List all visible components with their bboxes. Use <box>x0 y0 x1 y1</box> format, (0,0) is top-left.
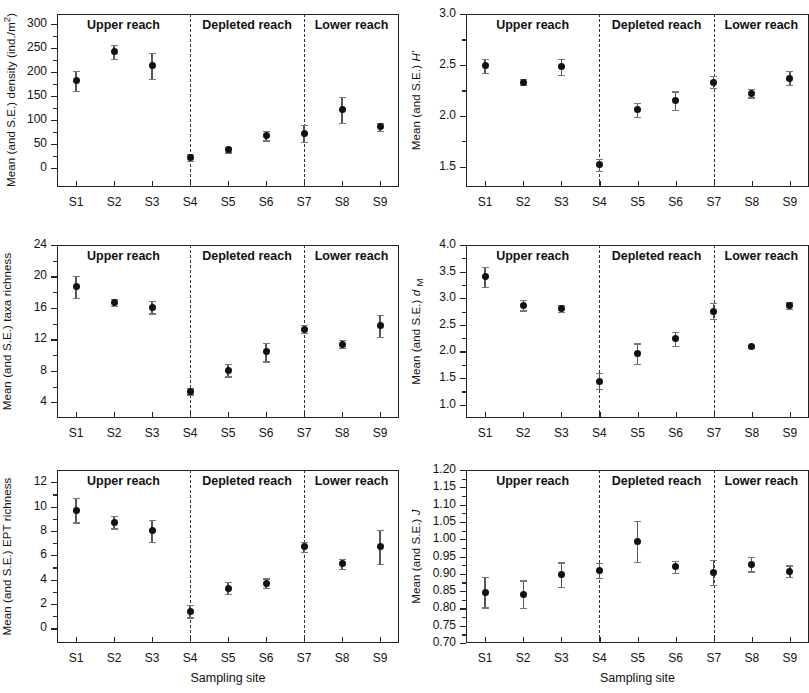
x-tick-label: S7 <box>284 651 324 665</box>
x-tick-mark <box>380 181 381 187</box>
y-tick-mark <box>51 96 57 97</box>
error-bar-cap-top <box>377 315 384 316</box>
y-tick-mark <box>460 116 466 117</box>
y-tick-label: 0.75 <box>418 618 456 632</box>
error-bar-cap-bottom <box>558 75 565 76</box>
error-bar-cap-bottom <box>786 577 793 578</box>
data-point <box>482 589 489 596</box>
x-tick-mark <box>790 412 791 418</box>
x-tick-mark <box>152 637 153 643</box>
x-tick-label: S9 <box>360 195 400 209</box>
x-tick-mark <box>561 637 562 643</box>
x-tick-label: S8 <box>322 426 362 440</box>
error-bar-cap-top <box>111 516 118 517</box>
error-bar-cap-bottom <box>339 569 346 570</box>
error-bar-cap-bottom <box>710 319 717 320</box>
y-tick-mark-minor <box>462 531 466 532</box>
error-bar-cap-bottom <box>748 571 755 572</box>
y-tick-mark <box>51 604 57 605</box>
y-tick-mark-minor <box>53 616 57 617</box>
x-tick-mark <box>561 181 562 187</box>
y-tick-mark-minor <box>462 548 466 549</box>
data-point <box>301 543 308 550</box>
y-tick-mark <box>460 65 466 66</box>
error-bar-cap-bottom <box>377 564 384 565</box>
error-bar-cap-bottom <box>111 528 118 529</box>
error-bar-cap-top <box>634 343 641 344</box>
y-tick-mark <box>51 120 57 121</box>
y-tick-label: 2.5 <box>418 57 456 71</box>
y-tick-mark-minor <box>462 39 466 40</box>
y-tick-mark <box>460 167 466 168</box>
group-divider <box>599 470 600 643</box>
data-point <box>377 123 384 130</box>
error-bar-cap-bottom <box>634 364 641 365</box>
y-tick-mark-minor <box>462 496 466 497</box>
reach-label-upper-reach: Upper reach <box>466 474 599 488</box>
data-point <box>263 132 270 139</box>
reach-label-upper-reach: Upper reach <box>57 249 190 263</box>
y-tick-mark-minor <box>53 292 57 293</box>
x-tick-mark <box>790 181 791 187</box>
x-tick-mark <box>114 637 115 643</box>
error-bar-cap-top <box>149 53 156 54</box>
y-tick-mark <box>460 608 466 609</box>
x-tick-label: S7 <box>694 195 734 209</box>
error-bar-cap-top <box>710 303 717 304</box>
y-tick-mark-minor <box>462 600 466 601</box>
x-tick-mark <box>752 637 753 643</box>
y-tick-mark <box>51 507 57 508</box>
x-tick-label: S5 <box>208 651 248 665</box>
error-bar-cap-top <box>225 582 232 583</box>
x-tick-mark <box>485 637 486 643</box>
data-point <box>377 543 384 550</box>
x-tick-label: S5 <box>618 195 658 209</box>
reach-label-depleted-reach: Depleted reach <box>599 474 713 488</box>
y-tick-mark-minor <box>462 513 466 514</box>
x-tick-label: S4 <box>579 651 619 665</box>
data-point <box>149 62 156 69</box>
x-axis-label-ept-richness: Sampling site <box>57 671 399 685</box>
y-tick-mark <box>460 591 466 592</box>
y-tick-mark-minor <box>462 285 466 286</box>
y-tick-label: 6 <box>9 547 47 561</box>
data-point <box>111 299 118 306</box>
plot-area-margalef <box>466 245 809 418</box>
error-bar-cap-bottom <box>786 309 793 310</box>
data-point <box>263 580 270 587</box>
x-tick-mark <box>380 637 381 643</box>
data-point <box>149 304 156 311</box>
y-tick-label: 10 <box>9 499 47 513</box>
x-tick-mark <box>228 412 229 418</box>
x-tick-label: S5 <box>618 651 658 665</box>
y-tick-mark <box>460 351 466 352</box>
error-bar-cap-bottom <box>149 542 156 543</box>
x-tick-mark <box>152 181 153 187</box>
x-tick-label: S3 <box>132 195 172 209</box>
error-bar-cap-top <box>73 71 80 72</box>
x-tick-label: S8 <box>322 651 362 665</box>
x-tick-label: S8 <box>732 426 772 440</box>
data-point <box>596 567 603 574</box>
error-bar-cap-bottom <box>301 142 308 143</box>
y-tick-label: 3.0 <box>418 6 456 20</box>
group-divider <box>304 14 305 187</box>
y-tick-label: 20 <box>9 268 47 282</box>
x-tick-label: S2 <box>94 426 134 440</box>
error-bar-cap-top <box>672 332 679 333</box>
data-point <box>301 130 308 137</box>
data-point <box>263 348 270 355</box>
y-tick-mark-minor <box>53 519 57 520</box>
y-axis-label-shannon: Mean (and S.E.) H' <box>410 14 422 187</box>
y-tick-label: 12 <box>9 331 47 345</box>
group-divider <box>714 245 715 418</box>
reach-label-depleted-reach: Depleted reach <box>190 474 304 488</box>
x-tick-mark <box>638 412 639 418</box>
reach-label-lower-reach: Lower reach <box>714 249 809 263</box>
error-bar-cap-bottom <box>710 585 717 586</box>
x-tick-label: S6 <box>246 195 286 209</box>
reach-label-depleted-reach: Depleted reach <box>190 18 304 32</box>
error-bar-cap-bottom <box>111 59 118 60</box>
x-tick-label: S6 <box>656 195 696 209</box>
y-axis-label-ept-richness: Mean (and S.E.) EPT richness <box>1 470 13 643</box>
